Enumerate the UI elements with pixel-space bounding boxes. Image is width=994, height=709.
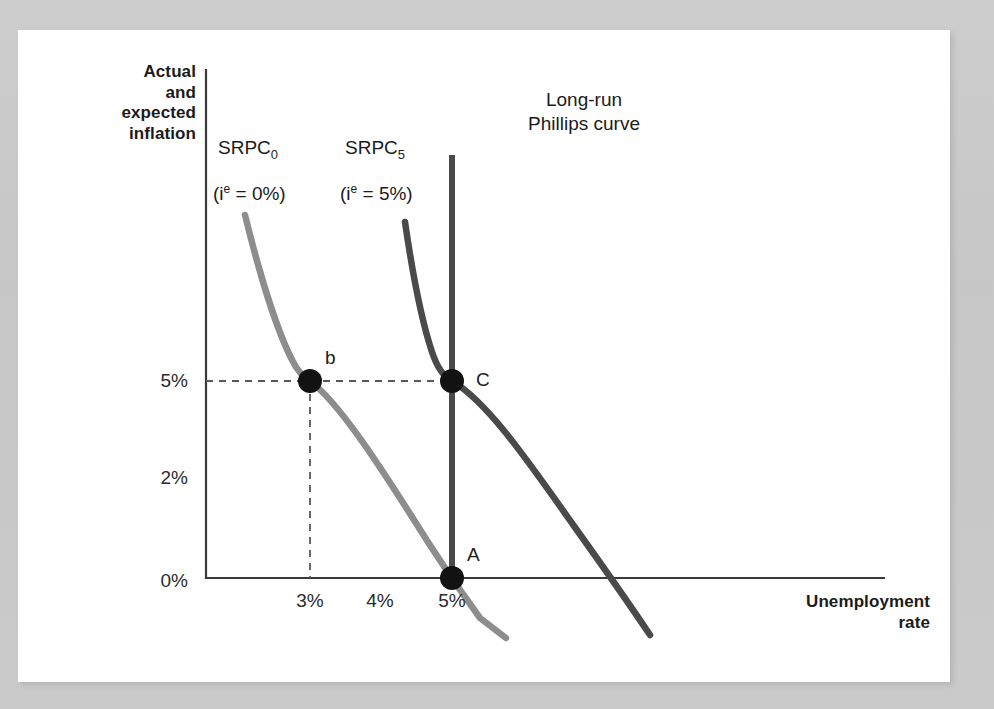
- curve-label-srpc5-subscript: 5: [398, 147, 405, 162]
- x-axis-title: Unemploymentrate: [638, 592, 930, 633]
- srpc5-cond-suffix: = 5%): [357, 183, 412, 204]
- curve-label-srpc0-name: SRPC: [218, 137, 271, 158]
- curve-label-srpc0: SRPC0: [218, 136, 278, 163]
- phillips-curve-chart: Actualandexpectedinflation 5% 2% 0% 3% 4…: [18, 30, 950, 682]
- point-label-C: C: [476, 368, 490, 391]
- curve-condition-srpc5: (ie = 5%): [340, 182, 413, 206]
- curve-label-srpc0-subscript: 0: [271, 147, 278, 162]
- point-label-b: b: [325, 346, 336, 369]
- x-tick-5pct: 5%: [424, 589, 480, 612]
- y-axis-title: Actualandexpectedinflation: [20, 62, 196, 145]
- x-tick-4pct: 4%: [352, 589, 408, 612]
- figure-panel: Actualandexpectedinflation 5% 2% 0% 3% 4…: [18, 30, 950, 682]
- x-tick-3pct: 3%: [282, 589, 338, 612]
- point-label-A: A: [467, 543, 480, 566]
- srpc0-cond-prefix: (i: [213, 183, 224, 204]
- curve-srpc0: [245, 215, 506, 638]
- srpc0-cond-suffix: = 0%): [230, 183, 285, 204]
- data-point-C: [440, 369, 464, 393]
- curve-label-lrpc-line1: Long-run: [486, 88, 682, 111]
- curve-label-srpc5: SRPC5: [345, 136, 405, 163]
- y-tick-2pct: 2%: [116, 466, 188, 489]
- data-point-A: [440, 566, 464, 590]
- data-point-b: [298, 369, 322, 393]
- curve-condition-srpc0: (ie = 0%): [213, 182, 286, 206]
- curve-label-lrpc-line2: Phillips curve: [486, 112, 682, 135]
- y-tick-5pct: 5%: [116, 369, 188, 392]
- y-tick-0pct: 0%: [116, 569, 188, 592]
- srpc5-cond-prefix: (i: [340, 183, 351, 204]
- curve-label-srpc5-name: SRPC: [345, 137, 398, 158]
